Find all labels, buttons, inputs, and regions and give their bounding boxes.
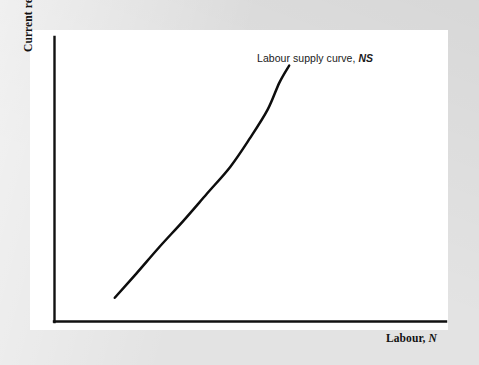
y-axis-label: Current real wage, w: [22, 0, 38, 52]
curve-annotation-label: Labour supply curve, NS: [257, 52, 373, 64]
curve-annotation-text: Labour supply curve,: [257, 52, 358, 64]
x-axis-label: Labour, N: [386, 332, 437, 344]
curve-annotation-symbol: NS: [358, 52, 373, 64]
x-axis-label-symbol: N: [429, 332, 437, 344]
x-axis-label-text: Labour,: [386, 332, 429, 344]
labour-supply-curve: [115, 66, 289, 298]
figure-container: Current real wage, w Labour, N Labour su…: [0, 0, 479, 365]
chart-canvas: [0, 0, 479, 365]
y-axis-label-text: Current real wage,: [22, 0, 34, 52]
